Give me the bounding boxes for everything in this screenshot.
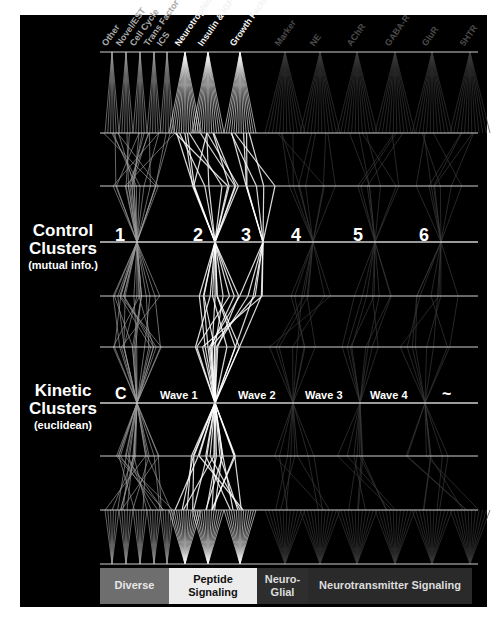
control-cluster-label: 4 [291,225,301,246]
control-cluster-label: 6 [419,225,429,246]
kinetic-cluster-label: Wave 2 [238,389,276,401]
kinetic-title: Kinetic [24,382,102,400]
kinetic-cluster-label: Wave 4 [370,389,408,401]
control-cluster-label: 5 [353,225,363,246]
category-band: Diverse [100,568,169,604]
kinetic-clusters-label: Kinetic Clusters (euclidean) [24,382,102,431]
control-subtitle: (mutual info.) [24,260,102,272]
control-clusters-label: Control Clusters (mutual info.) [24,222,102,271]
kinetic-subtitle: (euclidean) [24,420,102,432]
kinetic-cluster-label: C [115,385,127,403]
kinetic-title2: Clusters [24,400,102,418]
kinetic-cluster-label: Wave 1 [160,389,198,401]
control-cluster-label: 2 [193,225,203,246]
kinetic-cluster-label: Wave 3 [305,389,343,401]
category-band: Peptide Signaling [169,568,257,604]
control-cluster-label: 1 [115,225,125,246]
category-band: Neuro- Glial [257,568,308,604]
control-title: Control [24,222,102,240]
control-title2: Clusters [24,240,102,258]
kinetic-cluster-label: ~ [442,385,451,403]
control-cluster-label: 3 [241,225,251,246]
category-band: Neurotransmitter Signaling [308,568,472,604]
parallel-coordinates-diagram [0,0,504,622]
